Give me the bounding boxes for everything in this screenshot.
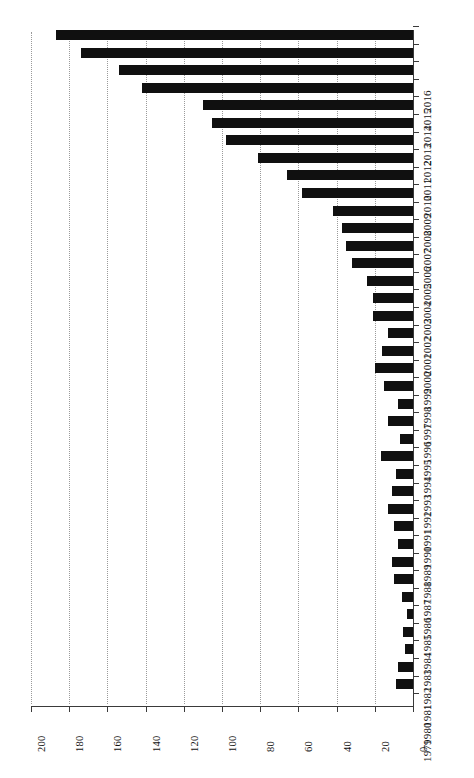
- category-tick-1993: [413, 447, 419, 448]
- category-tick-1987: [413, 553, 419, 554]
- gridline-60: [298, 32, 299, 704]
- category-tick-2009: [413, 167, 419, 168]
- value-tick-20: [375, 706, 376, 712]
- category-tick-2008: [413, 184, 419, 185]
- category-tick-1986: [413, 570, 419, 571]
- gridline-120: [184, 32, 185, 704]
- category-tick-top: [413, 26, 419, 27]
- bar-2003: [352, 258, 413, 268]
- category-tick-1999: [413, 342, 419, 343]
- bar-1997: [375, 363, 413, 373]
- value-tick-label-200: 200: [36, 712, 47, 752]
- bar-2000: [373, 311, 413, 321]
- value-tick-label-60: 60: [303, 712, 314, 752]
- category-tick-1998: [413, 360, 419, 361]
- category-tick-2013: [413, 96, 419, 97]
- category-tick-1997: [413, 377, 419, 378]
- value-tick-200: [31, 706, 32, 712]
- category-tick-2002: [413, 289, 419, 290]
- bar-2006: [333, 206, 413, 216]
- category-tick-2012: [413, 114, 419, 115]
- bar-2005: [342, 223, 413, 233]
- category-tick-2016: [413, 44, 419, 45]
- category-tick-2001: [413, 307, 419, 308]
- bar-2002: [367, 276, 413, 286]
- bar-1988: [394, 521, 413, 531]
- category-tick-1995: [413, 412, 419, 413]
- category-tick-2000: [413, 325, 419, 326]
- bar-2014: [119, 65, 413, 75]
- bar-1979: [396, 679, 413, 689]
- category-tick-2005: [413, 237, 419, 238]
- category-tick-1980: [413, 676, 419, 677]
- category-tick-2010: [413, 149, 419, 150]
- bar-1998: [382, 346, 413, 356]
- bar-2011: [212, 118, 413, 128]
- category-tick-1984: [413, 605, 419, 606]
- bar-1983: [407, 609, 413, 619]
- category-tick-1989: [413, 518, 419, 519]
- category-tick-1982: [413, 640, 419, 641]
- bar-1996: [384, 381, 413, 391]
- bar-2004: [346, 241, 413, 251]
- bar-2013: [142, 83, 413, 93]
- bar-2007: [302, 188, 413, 198]
- category-tick-1992: [413, 465, 419, 466]
- bar-1981: [405, 644, 413, 654]
- category-tick-2004: [413, 254, 419, 255]
- value-tick-label-140: 140: [151, 712, 162, 752]
- value-tick-120: [184, 706, 185, 712]
- value-tick-label-80: 80: [265, 712, 276, 752]
- value-tick-label-40: 40: [342, 712, 353, 752]
- gridline-100: [222, 32, 223, 704]
- bar-2009: [258, 153, 413, 163]
- plot-area: [31, 32, 413, 704]
- bar-chart-figure: Source: Scopus, based on articles that h…: [0, 0, 474, 778]
- value-tick-40: [337, 706, 338, 712]
- value-tick-label-160: 160: [112, 712, 123, 752]
- bar-1989: [388, 504, 413, 514]
- bar-1990: [392, 486, 413, 496]
- bar-1992: [381, 451, 413, 461]
- category-tick-1991: [413, 483, 419, 484]
- bar-1995: [398, 399, 413, 409]
- category-tick-1996: [413, 395, 419, 396]
- bar-2012: [203, 100, 413, 110]
- value-tick-140: [146, 706, 147, 712]
- category-tick-1994: [413, 430, 419, 431]
- value-tick-label-20: 20: [380, 712, 391, 752]
- category-tick-1981: [413, 658, 419, 659]
- category-tick-2014: [413, 79, 419, 80]
- category-tick-2003: [413, 272, 419, 273]
- bar-2015: [81, 48, 413, 58]
- bar-1986: [392, 557, 413, 567]
- gridline-140: [146, 32, 147, 704]
- bar-1980: [398, 662, 413, 672]
- value-tick-180: [69, 706, 70, 712]
- gridline-80: [260, 32, 261, 704]
- bar-2008: [287, 170, 413, 180]
- value-tick-100: [222, 706, 223, 712]
- value-tick-label-120: 120: [189, 712, 200, 752]
- category-tick-1985: [413, 588, 419, 589]
- category-tick-1979: [413, 693, 419, 694]
- bar-1984: [402, 592, 413, 602]
- category-tick-1988: [413, 535, 419, 536]
- value-tick-60: [298, 706, 299, 712]
- value-tick-0: [413, 706, 414, 712]
- gridline-160: [107, 32, 108, 704]
- bar-1994: [388, 416, 413, 426]
- bar-2010: [226, 135, 413, 145]
- category-tick-2015: [413, 61, 419, 62]
- category-label-1979: 1979: [421, 710, 433, 762]
- gridline-180: [69, 32, 70, 704]
- bar-1987: [398, 539, 413, 549]
- bar-1993: [400, 434, 413, 444]
- category-tick-2007: [413, 202, 419, 203]
- bar-2001: [373, 293, 413, 303]
- bar-1991: [396, 469, 413, 479]
- category-tick-1983: [413, 623, 419, 624]
- gridline-40: [337, 32, 338, 704]
- category-tick-1990: [413, 500, 419, 501]
- gridline-200: [31, 32, 32, 704]
